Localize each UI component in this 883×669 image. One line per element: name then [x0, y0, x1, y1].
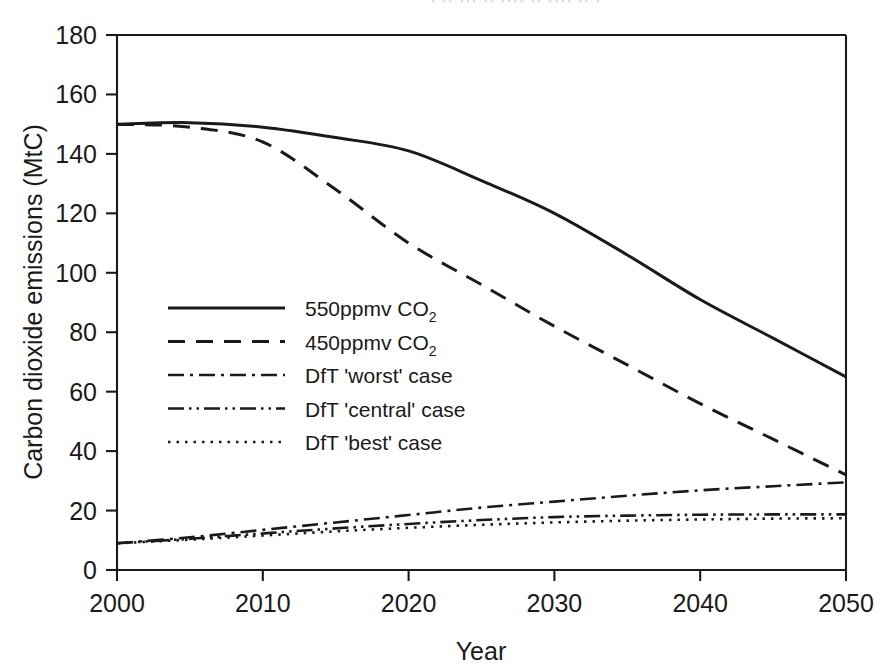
x-axis-tick-labels: 200020102020203020402050: [89, 589, 874, 617]
cut-off-title: · ·· ··· ·· ···· ·· ···· ·· ·: [430, 0, 601, 11]
co2-emissions-line-chart: 020406080100120140160180 200020102020203…: [0, 0, 883, 669]
x-tick-label: 2020: [381, 589, 437, 617]
series-line-1: [117, 124, 846, 475]
x-tick-label: 2030: [527, 589, 583, 617]
chart-legend: 550ppmv CO2450ppmv CO2DfT 'worst' caseDf…: [168, 297, 466, 454]
y-axis-ticks: [106, 35, 117, 570]
y-tick-label: 0: [83, 556, 97, 584]
y-tick-label: 60: [69, 378, 97, 406]
data-series-group: [117, 123, 846, 544]
series-line-0: [117, 123, 846, 377]
x-axis-title: Year: [456, 637, 507, 665]
legend-label-0: 550ppmv CO2: [305, 297, 437, 325]
y-axis-title: Carbon dioxide emissions (MtC): [19, 124, 47, 480]
legend-label-4: DfT 'best' case: [305, 431, 442, 454]
y-tick-label: 140: [55, 140, 97, 168]
y-axis-tick-labels: 020406080100120140160180: [55, 21, 97, 584]
y-tick-label: 120: [55, 199, 97, 227]
series-line-4: [117, 518, 846, 543]
y-tick-label: 20: [69, 497, 97, 525]
axis-frame: [117, 35, 846, 570]
x-tick-label: 2000: [89, 589, 145, 617]
figure-container: · ·· ··· ·· ···· ·· ···· ·· · 0204060801…: [0, 0, 883, 669]
legend-label-3: DfT 'central' case: [305, 398, 466, 421]
series-line-2: [117, 482, 846, 543]
chart-axes: [117, 35, 846, 570]
x-tick-label: 2040: [672, 589, 728, 617]
y-tick-label: 180: [55, 21, 97, 49]
series-line-3: [117, 514, 846, 543]
y-tick-label: 100: [55, 259, 97, 287]
x-tick-label: 2050: [818, 589, 874, 617]
y-tick-label: 80: [69, 318, 97, 346]
legend-label-1: 450ppmv CO2: [305, 331, 437, 359]
y-tick-label: 40: [69, 437, 97, 465]
legend-label-2: DfT 'worst' case: [305, 364, 453, 387]
legend-label-subscript-1: 2: [429, 343, 437, 359]
x-axis-ticks: [117, 570, 846, 581]
y-tick-label: 160: [55, 80, 97, 108]
x-tick-label: 2010: [235, 589, 291, 617]
legend-label-subscript-0: 2: [429, 309, 437, 325]
